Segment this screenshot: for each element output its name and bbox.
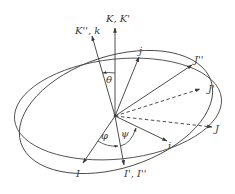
vector-J-double-prime	[115, 65, 192, 116]
vector-J-prime	[115, 89, 200, 116]
label-K-double-prime: K'', k	[74, 25, 100, 36]
euler-angle-diagram: K, K' K'', k j J'' J' J i I I', I'' θ φ …	[0, 0, 235, 194]
label-J-double-prime: J''	[192, 54, 204, 65]
label-theta: θ	[106, 74, 112, 85]
vector-I-prime	[115, 116, 124, 165]
label-J: J	[213, 123, 220, 134]
label-i: i	[168, 140, 171, 151]
vector-j	[115, 57, 139, 116]
label-I-prime: I', I''	[123, 168, 147, 179]
phi-arc	[98, 141, 118, 146]
label-K: K, K'	[105, 13, 130, 24]
rotated-plane-ellipse	[4, 28, 229, 194]
origin-point	[114, 115, 117, 118]
vector-I	[83, 116, 115, 163]
label-phi: φ	[101, 130, 108, 141]
label-psi: ψ	[121, 128, 129, 139]
theta-arc	[103, 73, 115, 74]
label-J-prime: J'	[206, 83, 215, 94]
